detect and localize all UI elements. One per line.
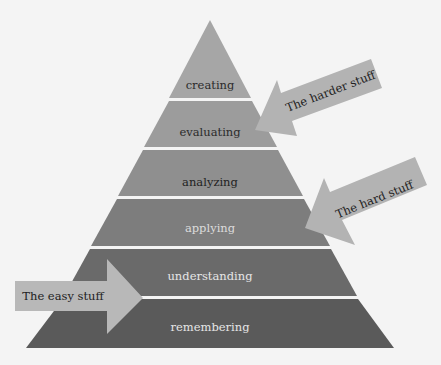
level-evaluating-label: evaluating bbox=[179, 125, 241, 139]
level-analyzing-band bbox=[118, 150, 303, 196]
bloom-pyramid-diagram: The harder stuff The hard stuff The easy… bbox=[0, 0, 441, 365]
arrow-harder-stuff: The harder stuff bbox=[255, 59, 382, 136]
level-understanding-label: understanding bbox=[167, 269, 253, 283]
level-remembering-label: remembering bbox=[170, 320, 250, 334]
level-analyzing-label: analyzing bbox=[182, 175, 238, 189]
arrow-hard-stuff: The hard stuff bbox=[305, 157, 427, 245]
level-creating-label: creating bbox=[186, 78, 235, 92]
level-evaluating-band bbox=[144, 101, 277, 147]
arrow-easy-stuff-label: The easy stuff bbox=[22, 289, 104, 303]
level-applying-label: applying bbox=[185, 221, 236, 235]
